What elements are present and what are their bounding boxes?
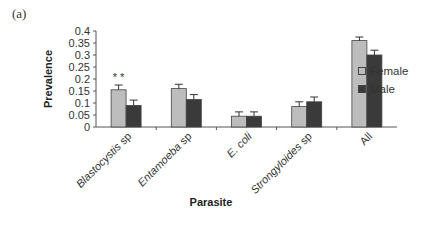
svg-text:0: 0 (84, 121, 90, 133)
male-swatch (358, 85, 366, 93)
svg-text:0.2: 0.2 (75, 73, 90, 85)
svg-text:0.25: 0.25 (69, 61, 90, 73)
legend-item-male: Male (358, 80, 408, 98)
svg-text:0.35: 0.35 (69, 37, 90, 49)
x-axis-label: Parasite (0, 196, 422, 208)
svg-text:E. coli: E. coli (224, 130, 254, 160)
legend: Female Male (358, 62, 408, 98)
female-swatch (358, 67, 366, 75)
svg-text:0.05: 0.05 (69, 109, 90, 121)
svg-text:0.15: 0.15 (69, 85, 90, 97)
svg-text:Entamoeba sp: Entamoeba sp (135, 130, 194, 189)
legend-label: Female (370, 65, 408, 77)
svg-text:Prevalence: Prevalence (42, 50, 54, 108)
bar-chart: 00.050.10.150.20.250.30.350.4Blastocysti… (0, 0, 422, 227)
svg-text:0.1: 0.1 (75, 97, 90, 109)
legend-label: Male (370, 83, 395, 95)
svg-text:All: All (357, 130, 374, 147)
svg-text:0.3: 0.3 (75, 49, 90, 61)
svg-text:* *: * * (113, 71, 125, 83)
svg-text:Strongyloides sp: Strongyloides sp (248, 130, 314, 196)
legend-item-female: Female (358, 62, 408, 80)
svg-text:0.4: 0.4 (75, 25, 90, 37)
svg-text:Blastocystis sp: Blastocystis sp (74, 130, 134, 190)
